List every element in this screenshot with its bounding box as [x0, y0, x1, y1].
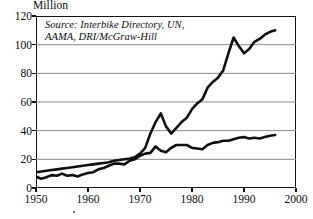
y-tick-label: 40: [21, 125, 33, 137]
y-tick-label: 100: [15, 39, 32, 51]
x-tick-label: 1950: [25, 193, 48, 205]
x-tick-mark: [295, 188, 296, 192]
series-lines: [36, 30, 275, 178]
y-tick-label: 20: [21, 153, 33, 165]
x-tick-label: 1980: [181, 193, 204, 205]
y-tick-label: 0: [26, 182, 32, 194]
x-tick-label: 1960: [77, 193, 100, 205]
series-line-2: [36, 135, 275, 179]
x-tick-mark: [191, 188, 192, 192]
y-axis-unit-label: Million: [33, 0, 68, 11]
plot-area: 020406080100120 195019601970198019902000…: [36, 16, 296, 188]
gridlines: [36, 45, 296, 160]
x-tick-mark: [243, 188, 244, 192]
y-tick-label: 60: [21, 96, 33, 108]
chart-figure: Million 020406080100120 1950196019701980…: [0, 0, 313, 219]
x-tick-label: 2000: [285, 193, 308, 205]
x-tick-label: 1990: [233, 193, 256, 205]
x-tick-mark: [35, 188, 36, 192]
print-speck: [73, 211, 75, 213]
series-line-1: [36, 30, 275, 172]
source-note: Source: Interbike Directory, UN, AAMA, D…: [45, 19, 184, 44]
y-tick-label: 80: [21, 67, 33, 79]
x-tick-mark: [139, 188, 140, 192]
x-tick-label: 1970: [129, 193, 152, 205]
x-tick-mark: [87, 188, 88, 192]
y-tick-label: 120: [15, 10, 32, 22]
